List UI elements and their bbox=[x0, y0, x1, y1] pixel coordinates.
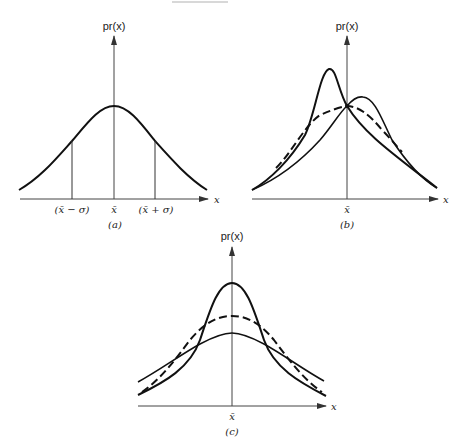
panel-b-sharp-peak-curve bbox=[252, 69, 437, 190]
panel-b-crossing-point bbox=[345, 104, 349, 108]
panel-b-right-hump-curve bbox=[252, 97, 437, 190]
panel-a-y-label: pr(x) bbox=[103, 20, 126, 32]
panel-a-bell-curve bbox=[19, 106, 207, 190]
panel-c: pr(x) x x̄ (c) bbox=[138, 230, 337, 437]
panel-b-tick-mean: x̄ bbox=[344, 204, 350, 215]
panel-c-caption: (c) bbox=[225, 426, 239, 437]
panel-c-flat-wide-curve bbox=[138, 333, 324, 382]
panel-a-tick-mean: x̄ bbox=[111, 204, 117, 215]
panel-a-caption: (a) bbox=[108, 219, 122, 230]
panel-c-y-label: pr(x) bbox=[221, 230, 244, 242]
panel-a-tick-plus-sigma: (x̄ + σ) bbox=[138, 204, 173, 215]
panel-b-y-label: pr(x) bbox=[336, 20, 359, 32]
panel-a: pr(x) x (x̄ − σ) x̄ (x̄ + σ) (a) bbox=[19, 20, 220, 230]
figure-canvas: pr(x) x (x̄ − σ) x̄ (x̄ + σ) (a) pr(x) x… bbox=[0, 0, 458, 440]
panel-b-caption: (b) bbox=[340, 219, 354, 230]
panel-a-tick-minus-sigma: (x̄ − σ) bbox=[54, 204, 89, 215]
panel-c-tick-mean: x̄ bbox=[229, 411, 235, 422]
panel-b: pr(x) x x̄ (b) bbox=[252, 20, 449, 230]
panel-a-x-label: x bbox=[214, 194, 220, 205]
panel-c-x-label: x bbox=[331, 401, 337, 412]
panel-b-x-label: x bbox=[443, 194, 449, 205]
